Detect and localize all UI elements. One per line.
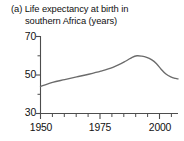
- x-tick-label-1950: 1950: [21, 122, 61, 133]
- y-axis-major-ticks: [36, 37, 41, 114]
- x-tick-label-1975: 1975: [80, 122, 120, 133]
- x-tick-label-2000: 2000: [140, 122, 180, 133]
- data-series-line: [41, 56, 179, 87]
- y-tick-label-30: 30: [14, 107, 36, 118]
- y-tick-label-50: 50: [14, 69, 36, 80]
- x-axis-major-ticks: [41, 114, 160, 120]
- chart-figure: (a) Life expectancy at birth in southern…: [0, 0, 184, 141]
- y-tick-label-70: 70: [14, 31, 36, 42]
